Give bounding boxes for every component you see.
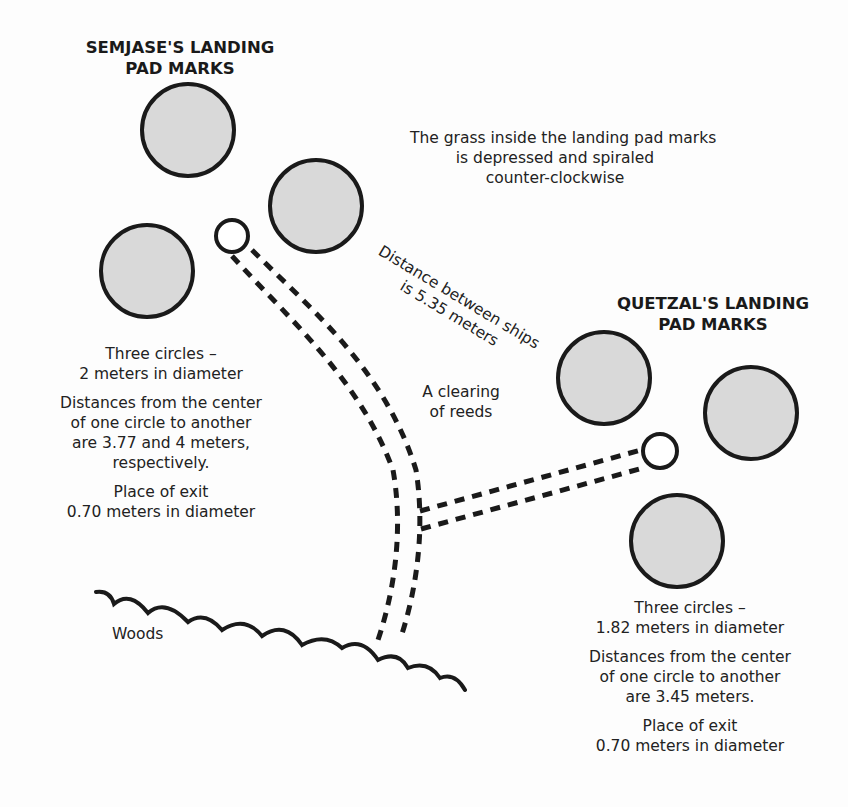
quetzal-title: QUETZAL'S LANDING PAD MARKS bbox=[590, 293, 836, 335]
semjase-pad-left bbox=[101, 225, 193, 317]
semjase-distances-line1: Distances from the center bbox=[30, 393, 292, 413]
quetzal-title-line2: PAD MARKS bbox=[590, 314, 836, 335]
quetzal-path-lower bbox=[421, 468, 643, 529]
grass-note: The grass inside the landing pad marks i… bbox=[410, 128, 700, 188]
quetzal-exit-line2: 0.70 meters in diameter bbox=[560, 736, 820, 756]
quetzal-distances-line1: Distances from the center bbox=[560, 647, 820, 667]
semjase-distances-line4: respectively. bbox=[30, 453, 292, 473]
semjase-pad-top bbox=[142, 84, 234, 176]
quetzal-exit-line1: Place of exit bbox=[560, 716, 820, 736]
quetzal-pads bbox=[558, 332, 797, 587]
quetzal-circles-line2: 1.82 meters in diameter bbox=[560, 618, 820, 638]
woods-label: Woods bbox=[112, 624, 163, 644]
clearing-line2: of reeds bbox=[406, 402, 516, 422]
quetzal-pad-bottom bbox=[631, 495, 723, 587]
clearing-line1: A clearing bbox=[406, 382, 516, 402]
semjase-title: SEMJASE'S LANDING PAD MARKS bbox=[82, 37, 278, 79]
quetzal-distances-line2: of one circle to another bbox=[560, 667, 820, 687]
quetzal-path-upper bbox=[420, 450, 641, 511]
semjase-exit-circle bbox=[216, 220, 248, 252]
landing-pad-diagram: SEMJASE'S LANDING PAD MARKS The grass in… bbox=[0, 0, 848, 807]
semjase-exit-line1: Place of exit bbox=[30, 482, 292, 502]
semjase-title-line2: PAD MARKS bbox=[82, 58, 278, 79]
quetzal-description: Three circles – 1.82 meters in diameter … bbox=[560, 598, 820, 756]
grass-note-line2: is depressed and spiraled bbox=[410, 148, 700, 168]
grass-note-line1: The grass inside the landing pad marks bbox=[410, 128, 700, 148]
quetzal-title-line1: QUETZAL'S LANDING bbox=[590, 293, 836, 314]
semjase-title-line1: SEMJASE'S LANDING bbox=[82, 37, 278, 58]
semjase-circles-line2: 2 meters in diameter bbox=[30, 364, 292, 384]
semjase-distances-line3: are 3.77 and 4 meters, bbox=[30, 433, 292, 453]
grass-note-line3: counter-clockwise bbox=[410, 168, 700, 188]
quetzal-circles-line1: Three circles – bbox=[560, 598, 820, 618]
semjase-circles-line1: Three circles – bbox=[30, 344, 292, 364]
quetzal-pad-top bbox=[558, 332, 650, 424]
semjase-pad-right bbox=[270, 160, 362, 252]
quetzal-distances-line3: are 3.45 meters. bbox=[560, 687, 820, 707]
semjase-pads bbox=[101, 84, 362, 317]
clearing-label: A clearing of reeds bbox=[406, 382, 516, 422]
quetzal-exit-circle bbox=[643, 434, 677, 468]
semjase-description: Three circles – 2 meters in diameter Dis… bbox=[30, 344, 292, 522]
semjase-exit-line2: 0.70 meters in diameter bbox=[30, 502, 292, 522]
semjase-distances-line2: of one circle to another bbox=[30, 413, 292, 433]
quetzal-pad-right bbox=[705, 367, 797, 459]
